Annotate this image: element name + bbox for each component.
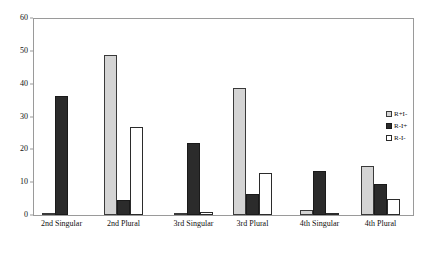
bar bbox=[55, 96, 68, 215]
y-axis-tick-label: 30 bbox=[20, 113, 28, 121]
legend-swatch-light-gray bbox=[386, 111, 392, 117]
y-axis-tick-label: 60 bbox=[20, 14, 28, 22]
y-axis-tick-label: 50 bbox=[20, 47, 28, 55]
bar bbox=[104, 55, 117, 215]
x-axis-category-label: 3rd Plural bbox=[237, 219, 269, 229]
bar bbox=[174, 213, 187, 215]
bar bbox=[117, 200, 130, 215]
bar-chart-figure: 0102030405060 2nd Singular2nd Plural3rd … bbox=[0, 0, 432, 258]
legend-item-label: R-I- bbox=[394, 134, 406, 142]
y-axis-tick-label: 0 bbox=[24, 211, 28, 219]
bar bbox=[200, 212, 213, 215]
x-axis-category-label: 2nd Plural bbox=[107, 219, 140, 229]
bar bbox=[130, 127, 143, 215]
x-axis-category-label: 4th Plural bbox=[365, 219, 396, 229]
bar-group bbox=[300, 19, 346, 215]
legend: R+I-R-I+R-I- bbox=[386, 108, 430, 144]
legend-swatch-white bbox=[386, 135, 392, 141]
legend-item: R+I- bbox=[386, 108, 430, 119]
y-axis-tick-label: 20 bbox=[20, 145, 28, 153]
bar-group bbox=[42, 19, 88, 215]
bar bbox=[300, 210, 313, 215]
bar bbox=[42, 213, 55, 215]
bar bbox=[246, 194, 259, 215]
bar bbox=[233, 88, 246, 215]
bar-group bbox=[104, 19, 150, 215]
legend-item-label: R-I+ bbox=[394, 122, 407, 130]
bar bbox=[313, 171, 326, 215]
bar bbox=[326, 213, 339, 215]
x-axis-category-label: 2nd Singular bbox=[41, 219, 82, 229]
x-axis: 2nd Singular2nd Plural3rd Singular3rd Pl… bbox=[34, 219, 413, 237]
bar bbox=[187, 143, 200, 215]
y-axis-tick-label: 40 bbox=[20, 80, 28, 88]
bar bbox=[387, 199, 400, 215]
legend-item: R-I+ bbox=[386, 120, 430, 131]
x-axis-category-label: 3rd Singular bbox=[174, 219, 214, 229]
bar bbox=[361, 166, 374, 215]
y-axis: 0102030405060 bbox=[0, 18, 33, 216]
legend-swatch-dark bbox=[386, 123, 392, 129]
bar bbox=[374, 184, 387, 215]
bar bbox=[259, 173, 272, 215]
bars-layer bbox=[34, 19, 413, 215]
y-axis-tick-label: 10 bbox=[20, 178, 28, 186]
bar-group bbox=[233, 19, 279, 215]
x-axis-category-label: 4th Singular bbox=[300, 219, 339, 229]
legend-item-label: R+I- bbox=[394, 110, 407, 118]
bar-group bbox=[174, 19, 220, 215]
legend-item: R-I- bbox=[386, 132, 430, 143]
